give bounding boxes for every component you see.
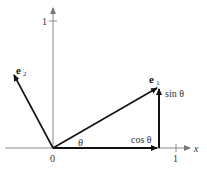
- svg-text:e: e: [149, 73, 154, 85]
- e1-label: e 1: [149, 73, 160, 87]
- y-tick-label: 1: [42, 16, 47, 27]
- x-tick-label: 1: [173, 153, 178, 164]
- rotation-diagram: 1 1 0 x θ cos θ sin θ e 1 e 2: [0, 0, 207, 169]
- e2-label: e 2: [16, 64, 27, 78]
- cos-label: cos θ: [131, 134, 152, 145]
- angle-label: θ: [78, 137, 83, 148]
- svg-text:1: 1: [156, 79, 160, 87]
- sin-label: sin θ: [165, 88, 184, 99]
- svg-text:e: e: [16, 64, 21, 76]
- svg-text:2: 2: [23, 70, 27, 78]
- e2-vector: [14, 75, 53, 148]
- x-axis-label: x: [193, 143, 199, 154]
- origin-label: 0: [50, 153, 55, 164]
